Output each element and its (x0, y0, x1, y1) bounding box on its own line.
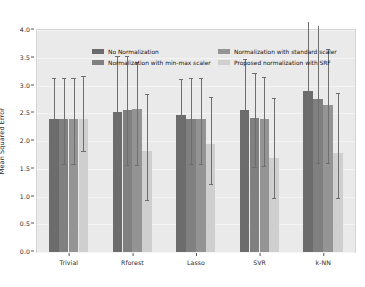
error-bar-cap-bottom (199, 164, 203, 165)
legend-label: Proposed normalization with SRF (234, 60, 331, 66)
plot-area: No NormalizationNormalization with stand… (36, 29, 356, 253)
y-tick-label: 1.5 (20, 164, 30, 171)
error-bar-cap-bottom (326, 163, 330, 164)
legend-item: Proposed normalization with SRF (218, 57, 365, 68)
x-tick-group: Rforest (121, 253, 144, 266)
y-axis-tick-labels: 0.00.51.01.52.02.53.03.54.0 (0, 29, 34, 253)
y-tick-label: 0.5 (20, 220, 30, 227)
error-bar-line (181, 79, 182, 164)
y-tick-mark (31, 112, 34, 113)
x-tick-label-rforest: Rforest (121, 259, 144, 266)
legend-item: No Normalization (92, 46, 210, 57)
error-bar-cap-bottom (81, 151, 85, 152)
legend-swatch-icon (92, 60, 104, 66)
error-bar-cap-bottom (145, 200, 149, 201)
error-bar-line (127, 56, 128, 165)
y-tick-mark (31, 167, 34, 168)
legend-swatch-icon (92, 49, 104, 55)
y-tick-label: 2.0 (20, 137, 30, 144)
error-bar-line (137, 62, 138, 165)
legend-label: Normalization with min-max scaler (108, 60, 211, 66)
error-bar-cap-bottom (272, 198, 276, 199)
error-bar-cap-bottom (189, 164, 193, 165)
error-bar-line (83, 76, 84, 151)
error-bar-line (191, 78, 192, 164)
error-bar-line (201, 78, 202, 164)
error-bar-line (74, 78, 75, 164)
error-bar-cap-bottom (125, 165, 129, 166)
error-bar-cap-top (199, 78, 203, 79)
error-bar-cap-top (262, 77, 266, 78)
legend-label: No Normalization (108, 49, 159, 55)
y-tick-label: 1.0 (20, 192, 30, 199)
y-tick-mark (31, 84, 34, 85)
error-bar-cap-bottom (179, 164, 183, 165)
error-bar-line (274, 98, 275, 198)
legend-swatch-icon (218, 49, 230, 55)
error-bar-cap-bottom (135, 165, 139, 166)
error-bar-cap-top (179, 79, 183, 80)
error-bar-cap-top (145, 94, 149, 95)
x-tick-group: k-NN (315, 253, 330, 266)
legend-item: Normalization with min-max scaler (92, 57, 210, 68)
error-bar-cap-bottom (336, 198, 340, 199)
chart-legend: No NormalizationNormalization with stand… (92, 46, 365, 68)
x-tick-mark (132, 253, 133, 256)
x-tick-label-svr: SVR (253, 259, 266, 266)
x-tick-label-trivial: Trivial (59, 259, 78, 266)
y-tick-label: 3.5 (20, 53, 30, 60)
error-bar-cap-top (52, 78, 56, 79)
x-tick-group: Lasso (187, 253, 205, 266)
error-bar-cap-top (71, 78, 75, 79)
y-tick-mark (31, 56, 34, 57)
error-bar-cap-top (272, 98, 276, 99)
error-bar-line (338, 93, 339, 197)
x-tick-label-k-nn: k-NN (315, 259, 330, 266)
y-tick-mark (31, 195, 34, 196)
error-bar-cap-bottom (306, 159, 310, 160)
error-bar-line (308, 22, 309, 159)
y-tick-label: 2.5 (20, 109, 30, 116)
error-bar-line (245, 59, 246, 164)
error-bar-line (117, 56, 118, 164)
error-bar-line (147, 94, 148, 199)
legend-item: Normalization with standard scaler (218, 46, 365, 57)
error-bar-line (211, 97, 212, 184)
chart-figure: Mean Squared Error 0.00.51.01.52.02.53.0… (0, 0, 365, 287)
x-tick-mark (196, 253, 197, 256)
y-tick-mark (31, 29, 34, 30)
y-tick-label: 0.0 (20, 248, 30, 255)
error-bar-cap-bottom (316, 163, 320, 164)
error-bar-cap-bottom (62, 164, 66, 165)
legend-swatch-icon (218, 60, 230, 66)
error-bar-cap-bottom (252, 167, 256, 168)
error-bar-cap-bottom (52, 164, 56, 165)
error-bar-line (255, 73, 256, 166)
error-bar-cap-bottom (209, 184, 213, 185)
error-bar-cap-bottom (262, 166, 266, 167)
error-bar-line (264, 77, 265, 166)
x-axis-tick-labels: TrivialRforestLassoSVRk-NN (36, 253, 356, 275)
error-bar-cap-bottom (71, 164, 75, 165)
y-tick-label: 4.0 (20, 26, 30, 33)
x-tick-label-lasso: Lasso (187, 259, 205, 266)
error-bar-cap-bottom (115, 164, 119, 165)
error-bar-cap-top (209, 97, 213, 98)
y-tick-label: 3.0 (20, 81, 30, 88)
error-bar-cap-top (189, 78, 193, 79)
y-tick-mark (31, 251, 34, 252)
error-bar-cap-top (336, 93, 340, 94)
x-tick-group: SVR (253, 253, 266, 266)
error-bar-line (54, 78, 55, 164)
x-tick-mark (323, 253, 324, 256)
error-bar-cap-top (62, 78, 66, 79)
error-bar-cap-top (252, 73, 256, 74)
error-bar-cap-bottom (243, 165, 247, 166)
y-tick-mark (31, 223, 34, 224)
error-bar-line (64, 78, 65, 164)
error-bar-cap-top (81, 76, 85, 77)
x-tick-mark (260, 253, 261, 256)
y-tick-mark (31, 140, 34, 141)
legend-label: Normalization with standard scaler (234, 49, 337, 55)
x-tick-mark (69, 253, 70, 256)
